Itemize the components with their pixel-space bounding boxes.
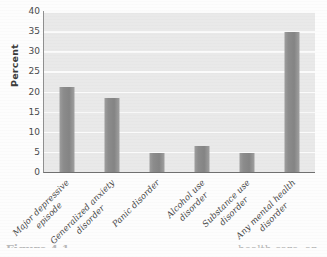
figure-bar-chart: Percent 0510152025303540 Major depressiv…: [0, 0, 327, 257]
caption-row: Figure 4.1 health care, an: [0, 243, 327, 257]
bar[interactable]: [149, 153, 164, 172]
bar-slot: [134, 11, 179, 172]
y-axis-tick-label: 25: [20, 66, 40, 76]
bar-slot: [180, 11, 225, 172]
caption-left-fragment: Figure 4.1: [6, 243, 69, 256]
x-axis-tick-labels: Major depressiveepisodeGeneralized anxie…: [43, 173, 314, 251]
bar[interactable]: [195, 146, 210, 172]
y-axis-tick-label: 0: [20, 167, 40, 177]
bar-slot: [270, 11, 315, 172]
caption-right-fragment: health care, an: [238, 243, 318, 255]
y-axis-tick-labels: 0510152025303540: [20, 8, 40, 172]
bar-slot: [225, 11, 270, 172]
y-axis-tick-label: 20: [20, 87, 40, 97]
y-axis-tick-label: 30: [20, 46, 40, 56]
bar-slot: [89, 11, 134, 172]
plot-area: [43, 11, 315, 173]
bar[interactable]: [104, 98, 119, 172]
bar[interactable]: [240, 153, 255, 172]
y-axis-tick-label: 35: [20, 26, 40, 36]
y-axis-tick-label: 40: [20, 6, 40, 16]
bar-slot: [44, 11, 89, 172]
x-axis-tick: Any mental healthdisorder: [269, 173, 314, 251]
bars-layer: [44, 11, 315, 172]
bar[interactable]: [59, 87, 74, 172]
y-axis-title: Percent: [9, 36, 20, 96]
y-axis-tick-label: 10: [20, 127, 40, 137]
y-axis-tick-label: 5: [20, 147, 40, 157]
bar[interactable]: [285, 32, 300, 172]
y-axis-tick-label: 15: [20, 107, 40, 117]
